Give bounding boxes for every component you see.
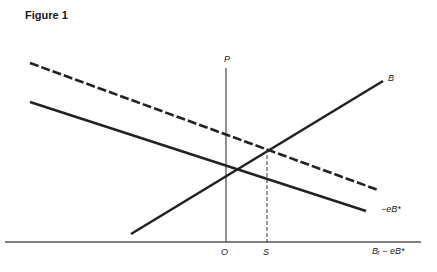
s-label: S (263, 247, 269, 257)
b-line (131, 81, 383, 234)
origin-label: O (221, 247, 228, 257)
dashed-shifted-line (30, 63, 378, 190)
y-axis-label: P (224, 54, 230, 64)
diagram-canvas (0, 0, 437, 272)
x-axis-label: Bᵣ − eB* (372, 246, 405, 256)
b-line-label: B (388, 73, 394, 83)
neg-eb-line-label: −eB* (381, 204, 401, 214)
